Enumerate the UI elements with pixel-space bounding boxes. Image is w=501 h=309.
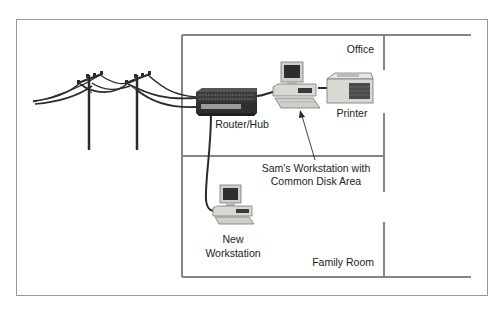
new-workstation-label-line2: Workstation bbox=[205, 247, 260, 259]
router-hub-icon bbox=[196, 88, 257, 116]
printer-label: Printer bbox=[337, 107, 368, 119]
new-workstation-label-line1: New bbox=[222, 233, 243, 245]
room-label-office: Office bbox=[347, 43, 374, 55]
room-label-family-room: Family Room bbox=[312, 256, 374, 268]
printer-icon bbox=[327, 73, 373, 103]
home-network-diagram: Office Family Room bbox=[0, 0, 501, 309]
router-hub-label: Router/Hub bbox=[215, 118, 269, 130]
sams-workstation-label-line1: Sam's Workstation with bbox=[262, 162, 371, 174]
sams-workstation-label-line2: Common Disk Area bbox=[271, 175, 362, 187]
